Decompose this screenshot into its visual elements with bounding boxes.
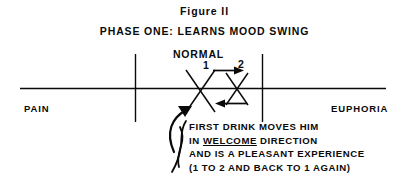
figure-subtitle: PHASE ONE: LEARNS MOOD SWING: [0, 26, 409, 37]
figure-title: Figure II: [0, 6, 409, 17]
annotation-line-4: (1 TO 2 AND BACK TO 1 AGAIN): [189, 161, 365, 175]
annotation-line-2-pre: IN: [189, 135, 203, 146]
annotation-welcome-emphasis: WELCOME: [203, 135, 257, 146]
annotation-text-block: FIRST DRINK MOVES HIM IN WELCOME DIRECTI…: [189, 120, 365, 174]
annotation-line-3: AND IS A PLEASANT EXPERIENCE: [189, 147, 365, 161]
marker-label-2: 2: [238, 59, 244, 70]
figure-diagram: Figure II PHASE ONE: LEARNS MOOD SWING N…: [0, 0, 409, 190]
annotation-line-2-post: DIRECTION: [257, 135, 318, 146]
annotation-brace: [172, 121, 186, 172]
x-marker-1: [186, 70, 215, 112]
annotation-line-2: IN WELCOME DIRECTION: [189, 134, 365, 148]
marker-label-1: 1: [203, 60, 209, 71]
x-marker-2: [226, 73, 248, 105]
arrow-back-to-normal: [215, 100, 247, 108]
axis-center-label-normal: NORMAL: [0, 49, 409, 60]
annotation-line-1: FIRST DRINK MOVES HIM: [189, 120, 365, 134]
axis-right-label-euphoria: EUPHORIA: [331, 104, 388, 114]
axis-left-label-pain: PAIN: [24, 104, 50, 114]
